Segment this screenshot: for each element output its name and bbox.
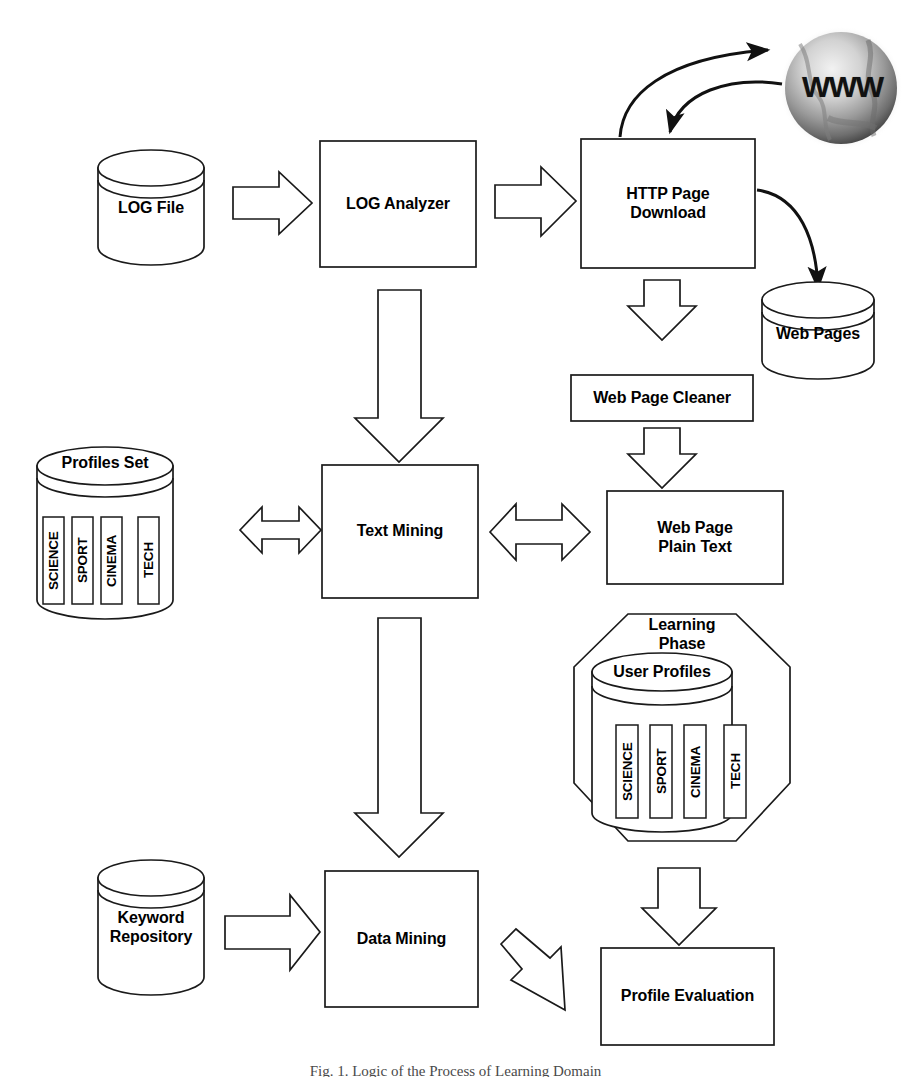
log-analyzer-box xyxy=(320,141,476,267)
curve-http-to-www xyxy=(620,50,768,137)
arrow-http-to-web-page-cleaner xyxy=(628,280,696,340)
profiles-set-tab-tech: TECH xyxy=(138,517,159,604)
www-globe-label: WWW xyxy=(802,70,882,104)
arrow-web-page-cleaner-to-plain-text xyxy=(628,428,696,488)
keyword-repository-cylinder xyxy=(98,860,204,995)
log-file-cylinder xyxy=(98,150,204,265)
diagram-vector-layer xyxy=(0,0,911,1077)
profiles-set-tab-cinema: CINEMA xyxy=(101,517,122,604)
arrow-log-analyzer-to-http-page-download xyxy=(495,167,576,236)
data-mining-box xyxy=(325,871,478,1007)
arrow-profiles-set-to-text-mining xyxy=(240,507,321,553)
arrow-keyword-repository-to-data-mining xyxy=(225,895,320,970)
web-page-plain-text-box xyxy=(607,491,783,584)
arrow-log-file-to-log-analyzer xyxy=(233,172,312,234)
web-page-cleaner-box xyxy=(571,375,753,421)
arrow-log-analyzer-to-text-mining xyxy=(355,290,443,462)
web-pages-cylinder xyxy=(762,282,874,379)
arrow-learning-phase-to-profile-evaluation xyxy=(642,868,716,945)
arrow-text-mining-to-plain-text xyxy=(490,504,590,560)
user-profiles-tab-tech: TECH xyxy=(724,725,746,818)
figure-caption: Fig. 1. Logic of the Process of Learning… xyxy=(0,1063,911,1077)
profiles-set-tab-sport: SPORT xyxy=(72,517,93,604)
arrow-text-mining-to-data-mining xyxy=(355,618,443,857)
user-profiles-tab-cinema: CINEMA xyxy=(684,725,706,818)
curve-www-to-http xyxy=(670,82,782,132)
user-profiles-tab-science: SCIENCE xyxy=(616,725,638,818)
text-mining-box xyxy=(322,465,478,598)
arrow-data-mining-to-profile-evaluation xyxy=(492,929,572,1031)
user-profiles-tab-sport: SPORT xyxy=(650,725,672,818)
curve-http-to-web-pages xyxy=(757,190,818,288)
http-page-download-box xyxy=(581,139,755,268)
profile-evaluation-box xyxy=(601,948,774,1045)
diagram-canvas: LOG File LOG Analyzer HTTP Page Download… xyxy=(0,0,911,1077)
profiles-set-tab-science: SCIENCE xyxy=(43,517,64,604)
